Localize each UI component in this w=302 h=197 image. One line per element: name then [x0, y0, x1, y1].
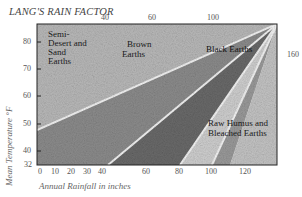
x-tick-80: 80: [175, 167, 183, 176]
x-tick-30: 30: [83, 167, 91, 176]
y-tick-50: 50: [23, 119, 31, 128]
x-tick-100: 100: [205, 167, 217, 176]
region-raw-humus-line2: Bleached Earths: [208, 129, 267, 139]
x-tick-0: 0: [38, 167, 42, 176]
y-tick-80: 80: [23, 37, 31, 46]
y-tick-32: 32: [24, 160, 32, 169]
rain-factor-160: 160: [287, 50, 299, 59]
region-semi-desert-label: Semi-Desert and Sand Earths: [48, 30, 88, 66]
x-tick-20: 20: [67, 167, 75, 176]
rain-factor-40: 40: [101, 13, 109, 22]
rain-factor-diagram: [0, 0, 302, 197]
y-tick-40: 40: [23, 146, 31, 155]
rain-factor-60: 60: [148, 13, 156, 22]
x-tick-120: 120: [239, 167, 251, 176]
region-brown-earths-line2: Earths: [122, 50, 145, 60]
x-tick-60: 60: [142, 167, 150, 176]
region-black-earths-label: Black Earths: [206, 45, 252, 55]
y-axis-label: Mean Temperature °F: [4, 107, 14, 186]
y-tick-70: 70: [23, 64, 31, 73]
x-tick-40: 40: [98, 167, 106, 176]
x-axis-label: Annual Rainfall in inches: [39, 181, 131, 191]
x-tick-10: 10: [51, 167, 59, 176]
rain-factor-100: 100: [207, 13, 219, 22]
y-tick-60: 60: [23, 91, 31, 100]
